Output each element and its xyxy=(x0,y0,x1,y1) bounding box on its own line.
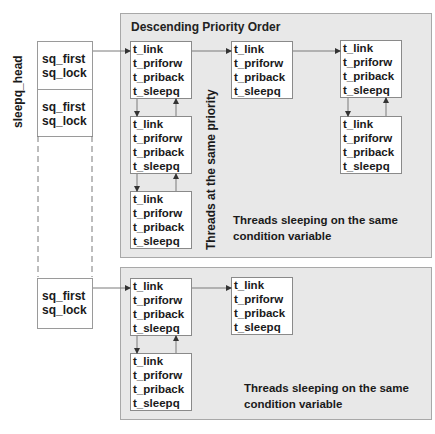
t-sleepq-field: t_sleepq xyxy=(133,234,191,248)
sleepq-head-entry: sq_first sq_lock xyxy=(38,279,92,328)
thread-struct: t_link t_priforw t_priback t_sleepq xyxy=(130,41,192,99)
t-priback-field: t_priback xyxy=(133,145,191,159)
sq-first-field: sq_first xyxy=(42,289,92,303)
top-panel-note: Threads sleeping on the same condition v… xyxy=(233,212,423,244)
t-priforw-field: t_priforw xyxy=(133,131,191,145)
sleepq-head-entry: sq_first sq_lock xyxy=(38,89,92,136)
t-link-field: t_link xyxy=(133,42,191,56)
thread-struct: t_link t_priforw t_priback t_sleepq xyxy=(130,353,192,411)
t-sleepq-field: t_sleepq xyxy=(133,321,191,335)
t-priforw-field: t_priforw xyxy=(234,56,292,70)
t-priforw-field: t_priforw xyxy=(343,131,401,145)
t-link-field: t_link xyxy=(133,354,191,368)
t-link-field: t_link xyxy=(234,42,292,56)
t-priback-field: t_priback xyxy=(234,70,292,84)
t-sleepq-field: t_sleepq xyxy=(343,83,401,97)
sleepq-head-label: sleepq_head xyxy=(11,55,25,128)
sq-first-field: sq_first xyxy=(42,52,92,66)
t-priback-field: t_priback xyxy=(133,307,191,321)
t-priback-field: t_priback xyxy=(343,145,401,159)
thread-struct: t_link t_priforw t_priback t_sleepq xyxy=(231,41,293,99)
sq-first-field: sq_first xyxy=(42,100,92,114)
bottom-panel-note: Threads sleeping on the same condition v… xyxy=(244,380,434,412)
t-link-field: t_link xyxy=(133,279,191,293)
t-priback-field: t_priback xyxy=(343,69,401,83)
t-priforw-field: t_priforw xyxy=(234,292,292,306)
t-sleepq-field: t_sleepq xyxy=(133,84,191,98)
thread-struct: t_link t_priforw t_priback t_sleepq xyxy=(130,116,192,174)
thread-struct: t_link t_priforw t_priback t_sleepq xyxy=(130,191,192,249)
t-priback-field: t_priback xyxy=(133,220,191,234)
sq-lock-field: sq_lock xyxy=(42,303,92,317)
thread-struct: t_link t_priforw t_priback t_sleepq xyxy=(340,40,402,98)
t-priforw-field: t_priforw xyxy=(133,56,191,70)
t-priforw-field: t_priforw xyxy=(133,206,191,220)
t-link-field: t_link xyxy=(234,278,292,292)
t-link-field: t_link xyxy=(133,192,191,206)
t-link-field: t_link xyxy=(343,117,401,131)
t-sleepq-field: t_sleepq xyxy=(343,159,401,173)
t-priforw-field: t_priforw xyxy=(343,55,401,69)
t-priback-field: t_priback xyxy=(234,306,292,320)
t-link-field: t_link xyxy=(133,117,191,131)
sq-lock-field: sq_lock xyxy=(42,114,92,128)
t-sleepq-field: t_sleepq xyxy=(133,396,191,410)
t-sleepq-field: t_sleepq xyxy=(133,159,191,173)
same-priority-label: Threads at the same priority xyxy=(204,89,218,250)
t-priback-field: t_priback xyxy=(133,382,191,396)
sleepq-head-array: sq_first sq_lock sq_first sq_lock xyxy=(37,41,93,137)
thread-struct: t_link t_priforw t_priback t_sleepq xyxy=(130,278,192,336)
thread-struct: t_link t_priforw t_priback t_sleepq xyxy=(340,116,402,174)
sq-lock-field: sq_lock xyxy=(42,66,92,80)
t-priback-field: t_priback xyxy=(133,70,191,84)
panel-title-descending-priority: Descending Priority Order xyxy=(131,20,280,34)
t-sleepq-field: t_sleepq xyxy=(234,320,292,334)
t-priforw-field: t_priforw xyxy=(133,293,191,307)
t-link-field: t_link xyxy=(343,41,401,55)
t-sleepq-field: t_sleepq xyxy=(234,84,292,98)
thread-struct: t_link t_priforw t_priback t_sleepq xyxy=(231,277,293,335)
sleepq-head-entry: sq_first sq_lock xyxy=(38,42,92,89)
t-priforw-field: t_priforw xyxy=(133,368,191,382)
sleepq-head-array-continued: sq_first sq_lock xyxy=(37,278,93,329)
